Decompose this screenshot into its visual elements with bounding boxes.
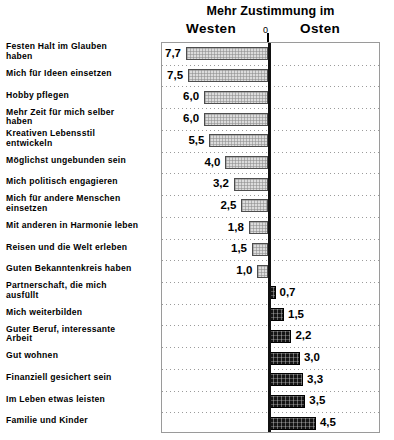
chart-root: Mehr Zustimmung im Westen Osten 0 Festen…	[0, 0, 394, 440]
category-label: Mich weiterbilden	[6, 308, 156, 318]
category-label: Kreativen Lebensstilentwickeln	[6, 129, 156, 148]
bar-westen	[225, 156, 268, 169]
gridline	[162, 369, 380, 370]
value-label: 4,0	[204, 157, 220, 169]
bar-westen	[186, 47, 268, 60]
gridline	[162, 260, 380, 261]
gridline	[162, 108, 380, 109]
value-label: 3,2	[213, 178, 229, 190]
gridline	[162, 304, 380, 305]
value-label: 1,5	[288, 309, 304, 321]
gridline	[162, 412, 380, 413]
value-label: 7,7	[165, 48, 181, 60]
gridline	[162, 325, 380, 326]
value-label: 7,5	[167, 70, 183, 82]
bar-westen	[234, 178, 268, 191]
gridline	[162, 152, 380, 153]
category-label: Guter Beruf, interessanteArbeit	[6, 325, 156, 344]
bar-osten	[268, 395, 305, 408]
axis-zero-tick	[267, 33, 269, 42]
value-label: 6,0	[183, 113, 199, 125]
value-label: 0,7	[280, 287, 296, 299]
category-label: Partnerschaft, die michausfüllt	[6, 281, 156, 300]
category-label: Im Leben etwas leisten	[6, 395, 156, 405]
bar-westen	[257, 265, 268, 278]
category-label: Mich für andere Menscheneinsetzen	[6, 194, 156, 213]
value-label: 1,0	[236, 265, 252, 277]
gridline	[162, 130, 380, 131]
gridline	[162, 86, 380, 87]
value-label: 3,0	[304, 352, 320, 364]
category-label: Familie und Kinder	[6, 416, 156, 426]
chart-title: Mehr Zustimmung im	[161, 4, 380, 18]
legend-label-westen: Westen	[186, 21, 236, 36]
gridline	[162, 282, 380, 283]
gridline	[162, 173, 380, 174]
category-label: Mehr Zeit für mich selberhaben	[6, 108, 156, 127]
bar-westen	[204, 91, 268, 104]
bar-westen	[249, 221, 268, 234]
value-label: 2,2	[295, 330, 311, 342]
value-label: 3,3	[307, 374, 323, 386]
bar-westen	[188, 69, 268, 82]
category-label: Guten Bekanntenkreis haben	[6, 264, 156, 274]
category-label: Reisen und die Welt erleben	[6, 243, 156, 253]
bar-westen	[204, 113, 268, 126]
bar-westen	[252, 243, 268, 256]
gridline	[162, 391, 380, 392]
value-label: 1,8	[228, 222, 244, 234]
value-label: 6,0	[183, 91, 199, 103]
bar-osten	[268, 330, 291, 343]
zero-axis-line	[268, 43, 271, 433]
bar-westen	[209, 134, 268, 147]
category-label: Möglichst ungebunden sein	[6, 156, 156, 166]
chart-header: Mehr Zustimmung im Westen Osten 0	[0, 0, 394, 42]
gridline	[162, 217, 380, 218]
value-label: 2,5	[220, 200, 236, 212]
gridline	[162, 65, 380, 66]
bar-osten	[268, 417, 316, 430]
category-label: Hobby pflegen	[6, 91, 156, 101]
value-label: 1,5	[231, 243, 247, 255]
gridline	[162, 239, 380, 240]
category-label: Mich politisch engagieren	[6, 177, 156, 187]
bar-osten	[268, 373, 303, 386]
category-label: Finanziell gesichert sein	[6, 373, 156, 383]
gridline	[162, 347, 380, 348]
category-label: Mit anderen in Harmonie leben	[6, 221, 156, 231]
category-label: Mich für Ideen einsetzen	[6, 69, 156, 79]
bar-osten	[268, 352, 300, 365]
gridline	[162, 195, 380, 196]
category-label: Festen Halt im Glaubenhaben	[6, 42, 156, 61]
value-label: 3,5	[309, 395, 325, 407]
value-label: 4,5	[320, 417, 336, 429]
legend-label-osten: Osten	[300, 21, 340, 36]
bar-westen	[241, 199, 268, 212]
value-label: 5,5	[188, 135, 204, 147]
category-label: Gut wohnen	[6, 351, 156, 361]
plot-area: 7,77,56,06,05,54,03,22,51,81,51,00,71,52…	[161, 42, 380, 433]
